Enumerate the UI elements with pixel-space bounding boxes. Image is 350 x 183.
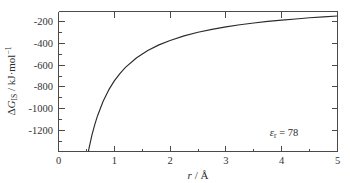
y-ticklabel: -400 (34, 38, 53, 49)
x-axis-separator: / (192, 169, 201, 181)
y-ticklabel: -800 (34, 81, 53, 92)
x-ticklabel: 3 (223, 155, 228, 166)
epsilon-equals: = (277, 127, 288, 138)
x-ticklabel: 2 (167, 155, 172, 166)
y-axis-unit-exponent: −1 (4, 46, 13, 54)
epsilon-value: 78 (288, 127, 299, 138)
x-axis-title: r / Å (188, 169, 209, 181)
x-ticklabel: 0 (56, 155, 61, 166)
x-ticklabel: 4 (279, 155, 285, 166)
y-axis-subscript: IS (10, 94, 19, 101)
y-ticklabel: -600 (34, 60, 53, 71)
ion-solvation-chart: -200 -400 -600 -800 -1000 -1200 0 1 2 3 … (0, 0, 350, 183)
y-axis-delta: Δ (5, 108, 17, 115)
y-ticklabel: -200 (34, 16, 53, 27)
y-axis-symbol: G (5, 100, 17, 108)
y-ticklabel: -1200 (29, 125, 54, 136)
y-axis-separator: / (5, 85, 17, 94)
y-axis-unit: kJ·mol (5, 55, 17, 86)
y-ticklabel: -1000 (29, 103, 54, 114)
figure-container: -200 -400 -600 -800 -1000 -1200 0 1 2 3 … (0, 0, 350, 183)
x-ticklabel: 5 (335, 155, 340, 166)
x-axis-unit: Å (200, 169, 208, 181)
x-ticklabel: 1 (112, 155, 117, 166)
